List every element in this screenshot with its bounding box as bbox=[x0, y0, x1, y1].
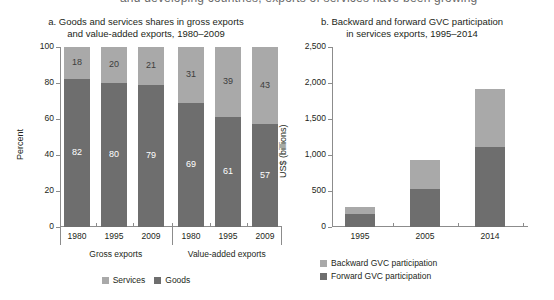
chart-a-bar-3-segment-goods: 69 bbox=[178, 103, 204, 227]
chart-b-y-tick-label-500: 500 bbox=[312, 185, 326, 195]
chart-b-legend-label-backward: Backward GVC participation bbox=[331, 258, 437, 268]
chart-a-bar-1-segment-goods: 80 bbox=[101, 83, 127, 227]
chart-a-legend: ServicesGoods bbox=[0, 275, 292, 285]
chart-a-legend-label-goods: Goods bbox=[165, 275, 190, 285]
chart-b-legend-item-forward: Forward GVC participation bbox=[320, 271, 431, 281]
chart-a-plot-area: 0204060801008218198080201995792120096931… bbox=[60, 47, 282, 227]
chart-a-bar-2: 7921 bbox=[138, 47, 164, 227]
chart-b-x-tick-label-2014-2: 2014 bbox=[470, 231, 510, 241]
chart-a-bar-3-bottom-value: 69 bbox=[178, 160, 204, 169]
chart-b-y-tick-mark-2500 bbox=[328, 47, 332, 48]
chart-b-x-tick-0 bbox=[393, 223, 394, 227]
chart-a-y-axis-line bbox=[60, 47, 61, 227]
chart-a-group-divider-1 bbox=[172, 227, 173, 245]
chart-a-x-tick-label-1980-3: 1980 bbox=[171, 231, 211, 241]
chart-b-bar-0-segment-forward-gvc-participation bbox=[345, 214, 375, 227]
chart-a-bar-1-segment-services: 20 bbox=[101, 47, 127, 83]
chart-a-x-tick-3 bbox=[210, 223, 211, 227]
chart-a-x-tick-4 bbox=[247, 223, 248, 227]
chart-a-bar-4-bottom-value: 61 bbox=[215, 167, 241, 176]
chart-b-legend-label-forward: Forward GVC participation bbox=[331, 271, 431, 281]
chart-a-bar-2-segment-goods: 79 bbox=[138, 85, 164, 227]
chart-a-bar-4-segment-services: 39 bbox=[215, 47, 241, 117]
chart-b-x-tick-label-2005-1: 2005 bbox=[405, 231, 445, 241]
chart-b-title: b. Backward and forward GVC participatio… bbox=[270, 16, 554, 39]
chart-b-y-tick-label-1000: 1,000 bbox=[305, 149, 326, 159]
chart-a-group-label-1: Value-added exports bbox=[172, 249, 283, 259]
chart-a-bar-3: 6931 bbox=[178, 47, 204, 227]
chart-b-y-tick-label-1500: 1,500 bbox=[305, 113, 326, 123]
chart-a-bar-2-top-value: 21 bbox=[138, 61, 164, 70]
chart-b-legend-item-backward: Backward GVC participation bbox=[320, 258, 437, 268]
chart-b-bar-0-segment-backward-gvc-participation bbox=[345, 207, 375, 214]
chart-b-x-tick-1 bbox=[458, 223, 459, 227]
chart-a-y-tick-label-100: 100 bbox=[40, 41, 54, 51]
chart-b-y-axis-label: US$ (billions) bbox=[278, 124, 288, 178]
chart-b-y-axis-line bbox=[332, 47, 333, 227]
chart-b-y-tick-label-2500: 2,500 bbox=[305, 41, 326, 51]
chart-a-x-tick-label-1995-4: 1995 bbox=[208, 231, 248, 241]
chart-a-y-tick-label-0: 0 bbox=[49, 221, 54, 231]
chart-b-x-tick-2 bbox=[523, 223, 524, 227]
chart-a-y-tick-label-80: 80 bbox=[45, 77, 54, 87]
chart-b-title-line1: b. Backward and forward GVC participatio… bbox=[270, 16, 554, 28]
chart-b-bar-2-segment-forward-gvc-participation bbox=[475, 147, 505, 227]
chart-a-legend-swatch-goods bbox=[154, 277, 161, 284]
chart-a-title-line1: a. Goods and services shares in gross ex… bbox=[0, 16, 292, 28]
chart-a-group-divider-0 bbox=[60, 227, 61, 245]
chart-b-legend-swatch-backward bbox=[320, 260, 327, 267]
chart-b-y-tick-mark-500 bbox=[328, 191, 332, 192]
chart-a-bar-1-top-value: 20 bbox=[101, 60, 127, 69]
chart-a-bar-1: 8020 bbox=[101, 47, 127, 227]
chart-b-bar-2-segment-backward-gvc-participation bbox=[475, 89, 505, 147]
chart-a-bar-0-bottom-value: 82 bbox=[64, 148, 90, 157]
chart-b-y-tick-label-2000: 2,000 bbox=[305, 77, 326, 87]
chart-a-x-tick-1 bbox=[133, 223, 134, 227]
chart-a-y-tick-mark-60 bbox=[56, 119, 60, 120]
chart-b-y-tick-mark-1000 bbox=[328, 155, 332, 156]
chart-a-bar-4: 6139 bbox=[215, 47, 241, 227]
chart-a-y-tick-mark-80 bbox=[56, 83, 60, 84]
chart-a-x-tick-0 bbox=[96, 223, 97, 227]
chart-a-bar-3-top-value: 31 bbox=[178, 70, 204, 79]
chart-a-y-tick-mark-40 bbox=[56, 155, 60, 156]
chart-panel-b: b. Backward and forward GVC participatio… bbox=[270, 0, 554, 300]
chart-panel-a: a. Goods and services shares in gross ex… bbox=[0, 0, 300, 300]
chart-a-legend-item-services: Services bbox=[102, 275, 146, 285]
chart-b-bar-0 bbox=[345, 207, 375, 227]
chart-a-y-tick-mark-100 bbox=[56, 47, 60, 48]
chart-a-title-line2: and value-added exports, 1980–2009 bbox=[0, 28, 292, 40]
chart-a-group-label-0: Gross exports bbox=[60, 249, 172, 259]
chart-b-bar-1-segment-backward-gvc-participation bbox=[410, 160, 440, 189]
chart-a-bar-3-segment-services: 31 bbox=[178, 47, 204, 103]
chart-b-y-tick-label-0: 0 bbox=[321, 221, 326, 231]
chart-b-legend: Backward GVC participationForward GVC pa… bbox=[320, 258, 437, 281]
chart-a-legend-label-services: Services bbox=[113, 275, 146, 285]
chart-a-legend-swatch-services bbox=[102, 277, 109, 284]
chart-a-x-tick-label-1995-1: 1995 bbox=[94, 231, 134, 241]
chart-a-bar-2-bottom-value: 79 bbox=[138, 151, 164, 160]
chart-b-y-tick-mark-2000 bbox=[328, 83, 332, 84]
chart-b-y-tick-mark-1500 bbox=[328, 119, 332, 120]
chart-b-x-tick-label-1995-0: 1995 bbox=[340, 231, 380, 241]
chart-b-bar-2 bbox=[475, 89, 505, 227]
chart-a-y-axis-label: Percent bbox=[15, 129, 25, 160]
chart-b-y-tick-mark-0 bbox=[328, 227, 332, 228]
chart-a-y-tick-label-40: 40 bbox=[45, 149, 54, 159]
chart-b-bar-1-segment-forward-gvc-participation bbox=[410, 189, 440, 227]
chart-b-bar-1 bbox=[410, 160, 440, 227]
chart-b-plot-area: 05001,0001,5002,0002,500199520052014 bbox=[332, 47, 528, 227]
chart-a-legend-item-goods: Goods bbox=[154, 275, 190, 285]
chart-a-bar-0: 8218 bbox=[64, 47, 90, 227]
chart-b-legend-swatch-forward bbox=[320, 273, 327, 280]
chart-a-x-tick-label-1980-0: 1980 bbox=[57, 231, 97, 241]
chart-a-bar-4-segment-goods: 61 bbox=[215, 117, 241, 227]
chart-a-bar-0-top-value: 18 bbox=[64, 58, 90, 67]
chart-a-bar-2-segment-services: 21 bbox=[138, 47, 164, 85]
chart-b-title-line2: in services exports, 1995–2014 bbox=[270, 28, 554, 40]
chart-a-x-tick-label-2009-2: 2009 bbox=[131, 231, 171, 241]
chart-a-bar-1-bottom-value: 80 bbox=[101, 150, 127, 159]
chart-a-y-tick-label-20: 20 bbox=[45, 185, 54, 195]
chart-a-bar-0-segment-services: 18 bbox=[64, 47, 90, 79]
chart-a-y-tick-mark-20 bbox=[56, 191, 60, 192]
